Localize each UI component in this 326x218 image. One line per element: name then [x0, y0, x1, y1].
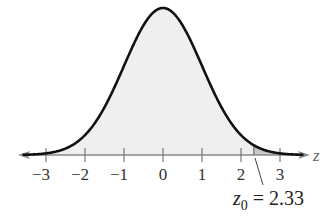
x-tick-label: 0 [159, 165, 168, 184]
x-axis-tick-labels: −3−2−10123 [32, 165, 284, 184]
axis-name-z: z [312, 146, 320, 165]
x-tick-label: −3 [32, 165, 50, 184]
x-tick-label: 2 [237, 165, 246, 184]
z0-annotation-var: z [232, 187, 241, 209]
z0-annotation: z0 = 2.33 [232, 187, 304, 213]
z0-annotation-subscript: 0 [241, 198, 248, 213]
x-tick-label: −2 [71, 165, 89, 184]
x-tick-label: 3 [276, 165, 285, 184]
annotation-leader-line [255, 158, 263, 185]
x-tick-label: 1 [198, 165, 207, 184]
normal-curve-chart: −3−2−10123 z z0 = 2.33 [0, 0, 326, 218]
body-fill-area [23, 8, 254, 155]
x-tick-label: −1 [110, 165, 128, 184]
z0-annotation-value: = 2.33 [248, 187, 304, 209]
